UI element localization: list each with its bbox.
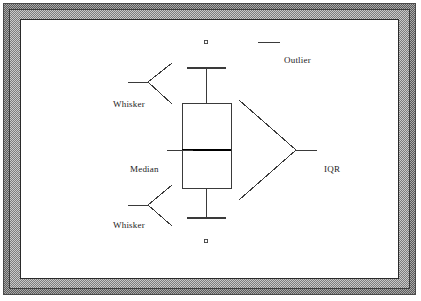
label-median: Median <box>130 164 159 174</box>
outlier-marker-upper <box>204 40 208 44</box>
whisker-upper-bracket-arm-top <box>148 63 172 82</box>
label-whisker-upper: Whisker <box>113 99 145 109</box>
whisker-upper-bracket-arm-bottom <box>148 82 172 104</box>
boxplot-svg <box>21 20 398 278</box>
iqr-bracket-arm-top <box>239 100 296 150</box>
label-outlier: Outlier <box>284 55 311 65</box>
whisker-lower-bracket-arm-top <box>148 185 172 205</box>
whisker-lower-bracket-arm-bottom <box>148 205 172 226</box>
outlier-marker-lower <box>204 239 208 243</box>
iqr-box <box>182 103 231 188</box>
iqr-bracket-arm-bottom <box>239 150 296 200</box>
figure-canvas: Outlier Whisker Whisker Median IQR <box>0 0 421 301</box>
label-iqr: IQR <box>324 164 340 174</box>
label-whisker-lower: Whisker <box>113 220 145 230</box>
boxplot-diagram: Outlier Whisker Whisker Median IQR <box>21 20 398 278</box>
